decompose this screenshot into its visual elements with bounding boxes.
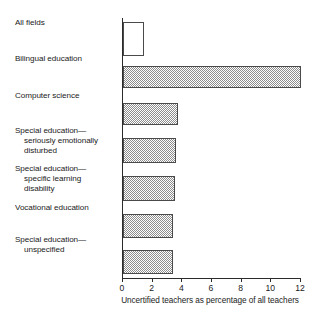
x-tick-label: 2 [142,283,162,293]
bar-computer-science [123,103,178,125]
bar-special-education-specific-learning-disability [123,176,175,201]
label-line: Special education— [15,235,86,244]
x-tick-label: 0 [112,283,132,293]
x-tick-label: 12 [290,283,310,293]
x-tick [211,278,212,282]
x-tick [241,278,242,282]
bar-chart: All fields Bilingual education Computer … [0,0,330,321]
label-line: All fields [15,18,45,27]
bar-all-fields [123,22,144,56]
category-label-special-education-unspecified: Special education— unspecified [15,235,118,255]
bar-bilingual-education [123,66,301,88]
label-line: disability [15,184,118,194]
x-tick-label: 4 [171,283,191,293]
category-label-column: All fields Bilingual education Computer … [0,0,118,278]
x-tick [270,278,271,282]
x-tick [152,278,153,282]
plot-area [122,18,300,278]
label-line: Special education— [15,126,86,135]
category-label-computer-science: Computer science [15,91,118,101]
x-axis-caption-text: Uncertified teachers as percentage of al… [31,296,299,305]
category-label-special-education-seriously-emotionally-disturbed: Special education— seriously emotionally… [15,126,118,156]
label-line: disturbed [15,146,118,156]
category-label-vocational-education: Vocational education [15,203,118,213]
bar-vocational-education [123,214,173,238]
label-line: seriously emotionally [15,136,118,146]
category-label-bilingual-education: Bilingual education [15,54,118,64]
x-axis-caption: Uncertified teachers as percentage of al… [0,296,330,305]
x-tick [181,278,182,282]
label-line: specific learning [15,174,118,184]
label-line: unspecified [15,245,118,255]
x-tick [300,278,301,282]
x-tick-label: 8 [231,283,251,293]
category-label-special-education-specific-learning-disability: Special education— specific learning dis… [15,164,118,194]
x-tick [122,278,123,282]
bar-special-education-seriously-emotionally-disturbed [123,138,176,163]
x-tick-label: 6 [201,283,221,293]
bar-special-education-unspecified [123,250,173,274]
label-line: Computer science [15,91,79,100]
label-line: Bilingual education [15,54,82,63]
label-line: Vocational education [15,203,89,212]
x-tick-label: 10 [260,283,280,293]
label-line: Special education— [15,164,86,173]
category-label-all-fields: All fields [15,18,118,28]
